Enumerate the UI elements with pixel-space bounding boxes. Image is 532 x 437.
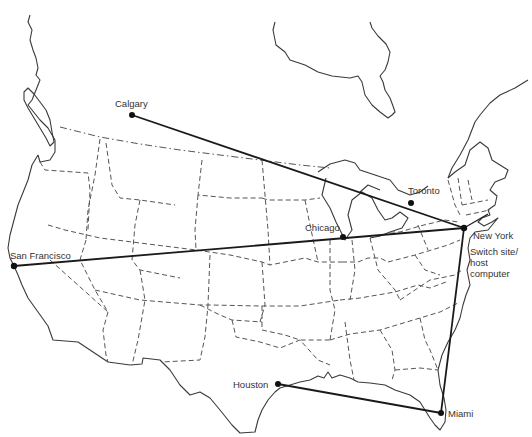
sanfrancisco-marker[interactable] xyxy=(11,263,17,269)
pacific-coast-us xyxy=(8,155,466,433)
map-canvas xyxy=(0,0,532,437)
label-miami: Miami xyxy=(448,408,473,419)
link-houston-miami xyxy=(278,384,441,413)
network-links xyxy=(14,115,488,413)
hub-note-line3: computer xyxy=(470,268,518,279)
network-map: Calgary Toronto New York Chicago San Fra… xyxy=(0,0,532,437)
vancouver-island xyxy=(24,88,54,146)
label-houston: Houston xyxy=(233,379,268,390)
hub-note-line2: host xyxy=(470,257,518,268)
canada-us-border xyxy=(60,127,330,168)
city-markers xyxy=(11,112,467,416)
newyork-marker[interactable] xyxy=(461,225,467,231)
houston-marker[interactable] xyxy=(275,381,281,387)
link-newyork-miami xyxy=(441,228,464,413)
toronto-marker[interactable] xyxy=(408,200,414,206)
hub-note: Switch site/ host computer xyxy=(470,246,518,279)
label-chicago: Chicago xyxy=(305,222,340,233)
label-toronto: Toronto xyxy=(408,185,440,196)
quebec-labrador-coast xyxy=(448,80,528,178)
label-calgary: Calgary xyxy=(115,98,148,109)
label-sanfrancisco: San Francisco xyxy=(10,250,71,261)
chicago-marker[interactable] xyxy=(340,234,346,240)
calgary-marker[interactable] xyxy=(129,112,135,118)
label-newyork: New York xyxy=(473,230,513,241)
state-boundaries xyxy=(40,139,490,380)
hudson-bay-coast-west xyxy=(273,22,395,118)
miami-marker[interactable] xyxy=(438,410,444,416)
pacific-coast-north xyxy=(28,15,55,162)
hub-note-line1: Switch site/ xyxy=(470,246,518,257)
link-calgary-newyork xyxy=(132,115,464,228)
